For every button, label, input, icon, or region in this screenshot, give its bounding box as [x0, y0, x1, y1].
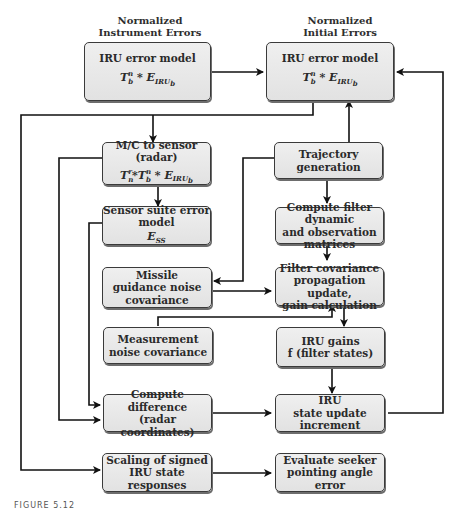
box-filter-covariance[interactable]: Filter covariance propagation update, ga…: [275, 267, 384, 306]
box-line: Compute difference: [104, 388, 211, 413]
box-title: M/C to sensor (radar): [103, 139, 210, 164]
formula-tnr-tbn-eirub: Tnr*Tbn * EIRUb: [120, 166, 193, 189]
box-line: Measurement: [117, 333, 198, 346]
box-compute-difference[interactable]: Compute difference (radar coordinates): [103, 394, 212, 432]
box-line: pointing angle error: [276, 466, 384, 491]
header-line: Instrument Errors: [95, 27, 205, 39]
box-line: IRU state responses: [103, 466, 211, 491]
box-title: IRU error model: [282, 52, 379, 65]
box-scaling-iru-responses[interactable]: Scaling of signed IRU state responses: [102, 453, 212, 492]
formula-tbn-eirub: Tbn * EIRUb: [302, 68, 357, 91]
header-instrument-errors: Normalized Instrument Errors: [95, 15, 205, 39]
box-line: state update increment: [276, 407, 384, 432]
box-sensor-suite-error-model[interactable]: Sensor suite error model ESS: [102, 206, 211, 245]
header-line: Initial Errors: [285, 27, 395, 39]
box-line: guidance noise: [113, 281, 202, 294]
box-title: Sensor suite error model: [103, 204, 210, 229]
box-line: propagation update,: [276, 274, 383, 299]
formula-ess: ESS: [147, 231, 165, 248]
box-line: Missile: [136, 269, 178, 282]
box-line: (radar coordinates): [104, 413, 211, 438]
box-line: Evaluate seeker: [283, 454, 376, 467]
header-initial-errors: Normalized Initial Errors: [285, 15, 395, 39]
box-iru-state-update[interactable]: IRU state update increment: [275, 394, 385, 432]
box-measurement-noise[interactable]: Measurement noise covariance: [103, 327, 213, 364]
box-title: Trajectory generation: [275, 148, 382, 173]
box-title: IRU error model: [99, 52, 196, 65]
box-line: Filter covariance: [280, 262, 379, 275]
box-line: noise covariance: [109, 346, 207, 359]
figure-caption: FIGURE 5.12: [14, 501, 75, 510]
box-compute-filter-matrices[interactable]: Compute filter dynamic and observation m…: [275, 207, 384, 244]
box-line: IRU: [319, 394, 342, 407]
box-line: and observation matrices: [276, 226, 383, 251]
header-line: Normalized: [285, 15, 395, 27]
box-trajectory-generation[interactable]: Trajectory generation: [274, 142, 383, 179]
box-mc-to-sensor[interactable]: M/C to sensor (radar) Tnr*Tbn * EIRUb: [102, 142, 211, 185]
box-iru-error-model-initial[interactable]: IRU error model Tbn * EIRUb: [266, 42, 394, 101]
box-line: IRU gains: [301, 335, 359, 348]
box-missile-guidance-noise[interactable]: Missile guidance noise covariance: [102, 267, 212, 308]
box-line: Compute filter dynamic: [276, 201, 383, 226]
box-line: Scaling of signed: [106, 454, 207, 467]
formula-tbn-eirub: Tbn * EIRUb: [120, 68, 175, 91]
box-line: gain calculation: [282, 299, 377, 312]
header-line: Normalized: [95, 15, 205, 27]
box-line: f (filter states): [288, 347, 373, 360]
box-evaluate-seeker-error[interactable]: Evaluate seeker pointing angle error: [275, 453, 385, 492]
box-iru-error-model-instrument[interactable]: IRU error model Tbn * EIRUb: [84, 42, 211, 101]
box-line: covariance: [125, 294, 188, 307]
box-iru-gains[interactable]: IRU gains f (filter states): [276, 327, 385, 367]
